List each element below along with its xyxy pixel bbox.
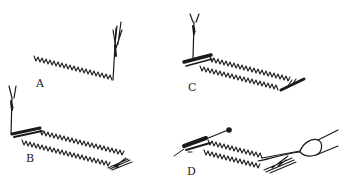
figure-canvas: A B C D: [0, 0, 345, 189]
bar-tack-left-icon: [184, 55, 212, 66]
bar-tack-right-icon: [281, 79, 304, 90]
zigzag-row-icon: [34, 56, 112, 80]
panel-label-b: B: [26, 153, 34, 164]
panel-d: [174, 127, 338, 173]
panel-c: [184, 14, 304, 90]
zigzag-row-icon: [22, 130, 124, 166]
panel-a: [34, 22, 122, 80]
panel-label-a: A: [36, 78, 44, 89]
zigzag-row-icon: [200, 57, 290, 90]
needle-icon: [190, 14, 199, 58]
panel-label-d: D: [187, 166, 196, 177]
seam-ripper-icon: [258, 130, 338, 161]
panel-label-c: C: [188, 82, 196, 93]
bar-tack-left-icon: [12, 128, 42, 137]
needle-icon: [9, 86, 16, 134]
needle-icon: [113, 22, 122, 80]
zigzag-row-icon: [204, 140, 262, 168]
bar-tack-left-icon: [174, 138, 210, 156]
bar-tack-right-icon: [108, 158, 132, 170]
stitch-diagram: [0, 0, 345, 189]
